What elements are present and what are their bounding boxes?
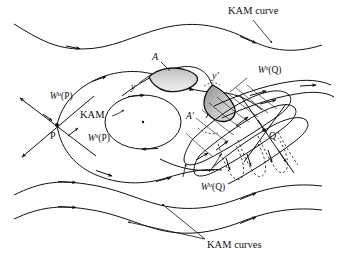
- point-p-marker: [55, 123, 59, 127]
- kam-curves-bottom-label: KAM curves: [207, 239, 262, 250]
- kam-island-center-dot: [142, 121, 144, 123]
- lobe-a-prime-label: A′: [185, 111, 195, 121]
- point-q-label: Q: [269, 130, 277, 141]
- wu-q-arg: (Q): [212, 182, 225, 193]
- kam-tangle-figure: KAM curve KAM curves P: [0, 0, 337, 260]
- ws-p-arg: (P): [98, 133, 110, 144]
- lobe-a-label: A: [151, 51, 159, 62]
- wu-p-arg: (P): [61, 91, 73, 102]
- point-p-label: P: [50, 130, 56, 141]
- diagram-canvas: KAM curve KAM curves P: [0, 0, 337, 260]
- ws-q-arg: (Q): [268, 65, 281, 76]
- kam-curve-top-label: KAM curve: [228, 5, 279, 16]
- point-y-label: y: [130, 81, 136, 92]
- point-q-marker: [262, 128, 266, 132]
- kam-island-label: KAM: [80, 109, 105, 120]
- point-y-prime-label: y′: [211, 70, 219, 81]
